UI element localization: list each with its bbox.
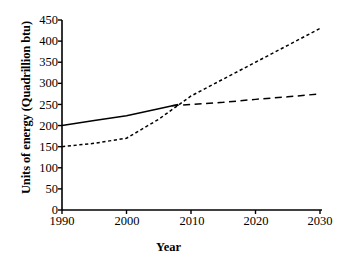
plot-area [0, 0, 337, 263]
chart-root: Units of energy (Quadrillion btu) Year 4… [0, 0, 337, 263]
series-line-dashed [172, 94, 320, 106]
series-line-dotted [62, 28, 320, 146]
series-line-solid [62, 104, 178, 125]
